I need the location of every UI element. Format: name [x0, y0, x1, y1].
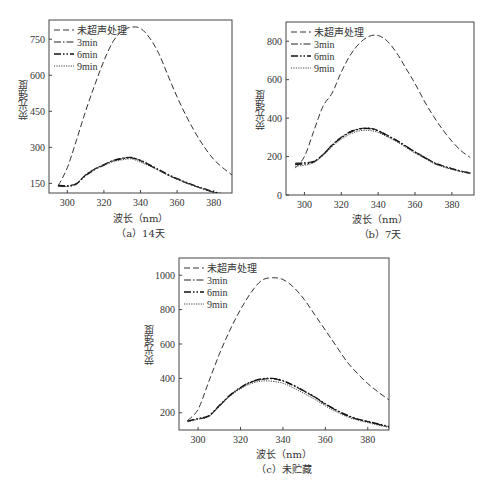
legend-label: 3min [207, 275, 228, 286]
legend-label: 未超声处理 [314, 26, 364, 38]
y-tick-label: 0 [277, 190, 282, 201]
y-tick-label: 750 [30, 34, 45, 45]
chart-a-svg: 300320340360380150300450600750未超声处理3min6… [0, 0, 245, 210]
legend: 未超声处理3min6min9min [54, 24, 127, 72]
x-tick-label: 380 [444, 199, 459, 210]
y-tick-label: 600 [160, 339, 175, 350]
chart-a-caption: （a）14天 [49, 225, 232, 240]
series-line-6min [188, 378, 390, 426]
x-tick-label: 340 [275, 434, 290, 445]
chart-panel-c: 3003203403603802004006008001000未超声处理3min… [130, 240, 400, 470]
figure-caption-faded [55, 478, 435, 487]
legend-label: 3min [77, 37, 98, 48]
chart-a-xlabel: 波长（nm） [49, 210, 232, 225]
chart-b-caption: （b）7天 [286, 226, 474, 241]
y-tick-label: 300 [30, 142, 45, 153]
y-tick-label: 1000 [155, 270, 175, 281]
x-tick-label: 340 [133, 197, 148, 208]
y-tick-label: 400 [160, 373, 175, 384]
legend: 未超声处理3min6min9min [184, 262, 257, 310]
legend: 未超声处理3min6min9min [291, 26, 364, 74]
x-tick-label: 360 [170, 197, 185, 208]
legend-label: 9min [77, 61, 98, 72]
y-tick-label: 600 [267, 74, 282, 85]
x-tick-label: 380 [206, 197, 221, 208]
y-tick-label: 400 [267, 113, 282, 124]
chart-c-xlabel: 波长（nm） [179, 446, 389, 461]
chart-b-ylabel: 荧光强度 [253, 90, 268, 130]
chart-c-ylabel: 荧光强度 [142, 325, 157, 365]
y-tick-label: 600 [30, 70, 45, 81]
x-tick-label: 360 [408, 199, 423, 210]
x-tick-label: 320 [96, 197, 111, 208]
x-tick-label: 360 [318, 434, 333, 445]
chart-a-ylabel: 荧光强度 [16, 80, 31, 120]
x-tick-label: 300 [297, 199, 312, 210]
chart-panel-a: 300320340360380150300450600750未超声处理3min6… [0, 0, 245, 235]
legend-label: 未超声处理 [207, 262, 257, 274]
legend-label: 3min [314, 39, 335, 50]
x-tick-label: 380 [360, 434, 375, 445]
chart-b-xlabel: 波长（nm） [286, 211, 474, 226]
x-tick-label: 340 [371, 199, 386, 210]
x-tick-label: 300 [191, 434, 206, 445]
series-line-9min [188, 381, 390, 428]
legend-label: 6min [207, 287, 228, 298]
chart-c-caption: （c）未贮藏 [179, 461, 389, 476]
y-tick-label: 800 [160, 304, 175, 315]
y-tick-label: 200 [267, 151, 282, 162]
series-line-9min [295, 130, 470, 173]
x-tick-label: 320 [334, 199, 349, 210]
series-line-6min [295, 128, 470, 173]
legend-label: 未超声处理 [77, 24, 127, 36]
legend-label: 9min [314, 63, 335, 74]
chart-b-svg: 3003203403603800200400600800未超声处理3min6mi… [245, 0, 491, 210]
y-tick-label: 150 [30, 178, 45, 189]
x-tick-label: 320 [233, 434, 248, 445]
x-tick-label: 300 [60, 197, 75, 208]
legend-label: 6min [314, 51, 335, 62]
y-tick-label: 200 [160, 407, 175, 418]
chart-panel-b: 3003203403603800200400600800未超声处理3min6mi… [245, 0, 491, 235]
chart-c-svg: 3003203403603802004006008001000未超声处理3min… [130, 240, 400, 445]
legend-label: 9min [207, 299, 228, 310]
legend-label: 6min [77, 49, 98, 60]
y-tick-label: 450 [30, 106, 45, 117]
y-tick-label: 800 [267, 36, 282, 47]
